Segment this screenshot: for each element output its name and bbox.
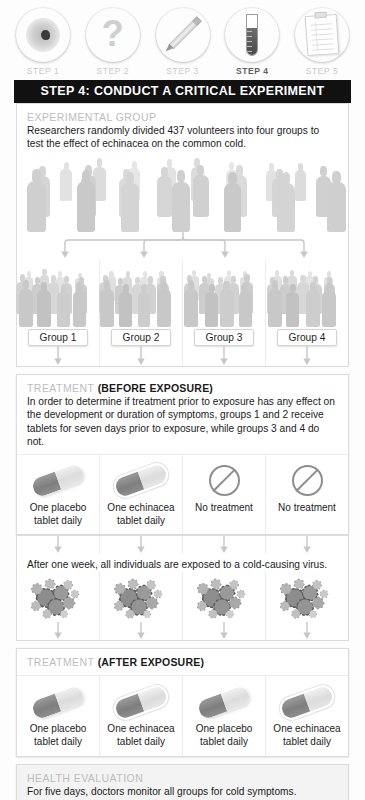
post-exposure-arrow-1 — [17, 622, 100, 640]
treatment-after-cell-2-line1: One echinacea — [107, 723, 174, 734]
person-silhouette — [100, 280, 114, 326]
group-label-3: Group 3 — [194, 329, 255, 346]
volunteer-crowd-illustration — [17, 153, 348, 231]
treatment-before-cell-2-line1: One echinacea — [107, 502, 174, 513]
step-item-1[interactable]: STEP 1 — [12, 8, 74, 76]
treatment-before-heading-light: TREATMENT — [27, 382, 94, 394]
echinacea-capsule-icon — [113, 684, 168, 720]
treatment-before-cell-2-line2: tablet daily — [117, 515, 165, 526]
treatment-before-cell-1: One placebotablet daily — [17, 455, 100, 535]
person-silhouette — [286, 284, 299, 327]
person-silhouette — [184, 280, 198, 327]
placebo-capsule-icon — [30, 684, 85, 720]
person-silhouette — [73, 282, 86, 327]
person-silhouette — [119, 284, 132, 327]
petri-dish-icon — [16, 8, 70, 62]
treatment-before-cell-1-line2: tablet daily — [34, 515, 82, 526]
virus-cell-2 — [100, 572, 183, 622]
person-silhouette — [295, 163, 306, 201]
clipboard-icon — [295, 8, 349, 62]
person-silhouette — [327, 171, 345, 231]
group-column-3: Group 3 — [183, 261, 266, 366]
step-label-5: STEP 5 — [291, 66, 353, 76]
test-tube-icon — [225, 8, 279, 62]
person-silhouette — [121, 172, 139, 231]
person-silhouette — [57, 284, 70, 327]
step-item-5[interactable]: STEP 5 — [291, 8, 353, 76]
treatment-after-cell-2-line2: tablet daily — [117, 736, 165, 747]
group-column-2: Group 2 — [100, 261, 183, 366]
person-silhouette — [19, 280, 33, 327]
group-down-arrow-4 — [266, 346, 348, 366]
treatment-after-cell-1-line2: tablet daily — [34, 736, 82, 747]
treatment-after-heading-bold: (AFTER EXPOSURE) — [98, 656, 204, 668]
experimental-group-panel: EXPERIMENTAL GROUP Researchers randomly … — [16, 103, 349, 367]
group-split-tree — [25, 231, 340, 261]
echinacea-capsule-icon — [113, 463, 168, 499]
exposure-note: After one week, all individuals are expo… — [17, 554, 348, 572]
step-label-3: STEP 3 — [152, 66, 214, 76]
treatment-before-cell-4-line1: No treatment — [278, 502, 336, 513]
virus-cell-3 — [183, 572, 266, 622]
step-item-2[interactable]: ? STEP 2 — [82, 8, 144, 76]
health-evaluation-panel: HEALTH EVALUATION For five days, doctors… — [16, 764, 349, 800]
treatment-after-cell-4-line1: One echinacea — [273, 723, 340, 734]
no-treatment-icon — [292, 465, 323, 496]
no-treatment-icon — [209, 465, 240, 496]
treatment-before-cell-3-line1: No treatment — [195, 502, 253, 513]
group-column-4: Group 4 — [266, 261, 348, 366]
group-down-arrow-3 — [183, 346, 265, 366]
virus-cells — [17, 572, 348, 622]
person-silhouette — [220, 281, 234, 327]
step-strip: STEP 1 ? STEP 2 STEP 3 — [0, 0, 365, 76]
treatment-before-cells: One placebotablet daily One echinaceatab… — [17, 454, 348, 535]
group-columns: Group 1 Group 2 Group 3 — [17, 261, 348, 366]
post-exposure-arrow-3 — [183, 622, 266, 640]
person-silhouette — [27, 169, 45, 231]
placebo-capsule-icon — [196, 684, 251, 720]
virus-cell-1 — [17, 572, 100, 622]
exposure-arrow-4 — [266, 536, 348, 554]
person-silhouette — [205, 284, 218, 327]
group-down-arrow-2 — [100, 346, 182, 366]
step-item-4[interactable]: STEP 4 — [221, 8, 283, 76]
group-label-4: Group 4 — [277, 329, 338, 346]
step-item-3[interactable]: STEP 3 — [152, 8, 214, 76]
treatment-before-heading-bold: (BEFORE EXPOSURE) — [98, 382, 213, 394]
person-silhouette — [306, 282, 320, 327]
step-label-4: STEP 4 — [221, 66, 283, 76]
treatment-after-cell-3-line2: tablet daily — [200, 736, 248, 747]
person-silhouette — [277, 172, 295, 231]
treatment-after-cells: One placebotablet daily One echinaceatab… — [17, 675, 348, 756]
virus-cluster-icon — [266, 576, 348, 622]
treatment-after-panel: TREATMENT (AFTER EXPOSURE) One placebota… — [16, 648, 349, 757]
treatment-after-cell-4-line2: tablet daily — [283, 736, 331, 747]
step-label-2: STEP 2 — [82, 66, 144, 76]
person-silhouette — [138, 284, 151, 327]
person-silhouette — [322, 283, 335, 327]
post-exposure-arrow-2 — [100, 622, 183, 640]
treatment-after-cell-1-line1: One placebo — [30, 723, 87, 734]
treatment-before-cell-4: No treatment — [266, 455, 348, 535]
person-silhouette — [60, 162, 72, 201]
treatment-after-heading: TREATMENT (AFTER EXPOSURE) — [27, 656, 338, 668]
placebo-capsule-icon — [30, 463, 85, 499]
treatment-after-cell-4: One echinaceatablet daily — [266, 676, 348, 756]
person-silhouette — [77, 170, 95, 231]
person-silhouette — [224, 172, 242, 231]
group-down-arrow-1 — [17, 346, 99, 366]
person-silhouette — [157, 167, 172, 217]
health-evaluation-body: For five days, doctors monitor all group… — [27, 785, 338, 798]
health-evaluation-heading: HEALTH EVALUATION — [27, 772, 338, 784]
treatment-after-cell-3: One placebotablet daily — [183, 676, 266, 756]
step-label-1: STEP 1 — [12, 66, 74, 76]
experimental-group-heading: EXPERIMENTAL GROUP — [27, 111, 338, 123]
group-crowd-illustration — [100, 261, 182, 327]
treatment-before-cell-2: One echinaceatablet daily — [100, 455, 183, 535]
exposure-arrow-1 — [17, 536, 100, 554]
person-silhouette — [37, 282, 51, 327]
group-crowd-illustration — [266, 261, 348, 327]
group-label-1: Group 1 — [28, 329, 89, 346]
echinacea-capsule-icon — [279, 684, 334, 720]
treatment-after-heading-light: TREATMENT — [27, 656, 94, 668]
